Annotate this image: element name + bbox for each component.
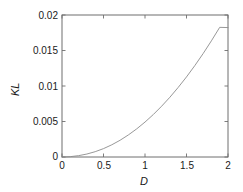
x-tick-label-1: 1: [131, 161, 159, 171]
plot-frame: [62, 15, 228, 157]
x-tick-label-1.5: 1.5: [173, 161, 201, 171]
y-axis-title: KL: [10, 83, 21, 96]
y-tick-label-0.02: 0.02: [4, 11, 58, 21]
x-tick-label-0.5: 0.5: [90, 161, 118, 171]
y-tick-label-0.015: 0.015: [4, 46, 58, 56]
plot-canvas: [0, 0, 243, 192]
chart-figure: 0.02 0.015 0.01 0.005 0 0 0.5 1 1.5 2 KL…: [0, 0, 243, 192]
x-tick-label-2: 2: [214, 161, 242, 171]
y-tick-label-0.005: 0.005: [4, 117, 58, 127]
x-axis-title: D: [140, 176, 148, 187]
x-tick-label-0: 0: [48, 161, 76, 171]
